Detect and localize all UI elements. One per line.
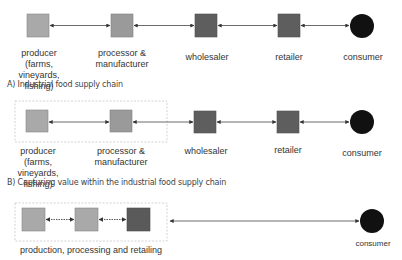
retailing-node bbox=[127, 208, 150, 231]
retailer-node bbox=[278, 14, 300, 37]
producer-node bbox=[27, 14, 49, 37]
consumer-node bbox=[360, 209, 384, 233]
processor-label: processor & manufacturer bbox=[90, 146, 152, 168]
processor-node bbox=[110, 110, 132, 132]
producer-node bbox=[26, 110, 48, 132]
production-node bbox=[22, 208, 45, 231]
section-c-diagram bbox=[15, 203, 384, 241]
group-label: production, processing and retailing bbox=[15, 245, 167, 256]
section-b-diagram bbox=[15, 101, 374, 142]
consumer-node bbox=[350, 14, 374, 38]
supply-chain-diagram bbox=[0, 0, 402, 260]
consumer-label: consumer bbox=[336, 52, 390, 63]
consumer-label: consumer bbox=[346, 238, 400, 249]
processor-node bbox=[111, 14, 133, 37]
wholesaler-node bbox=[194, 111, 216, 133]
retailer-label: retailer bbox=[258, 52, 320, 63]
section-b-caption: B) Capturing value within the industrial… bbox=[7, 178, 226, 187]
processing-node bbox=[75, 208, 98, 231]
wholesaler-label: wholesaler bbox=[175, 146, 237, 157]
retailer-label: retailer bbox=[257, 145, 319, 156]
section-a-diagram bbox=[27, 14, 374, 38]
wholesaler-label: wholesaler bbox=[176, 52, 238, 63]
processor-label: processor & manufacturer bbox=[91, 48, 153, 70]
retailer-node bbox=[277, 111, 299, 133]
wholesaler-node bbox=[195, 14, 217, 37]
section-a-caption: A) Industrial food supply chain bbox=[7, 80, 123, 89]
consumer-label: consumer bbox=[335, 148, 389, 159]
consumer-node bbox=[350, 110, 374, 134]
